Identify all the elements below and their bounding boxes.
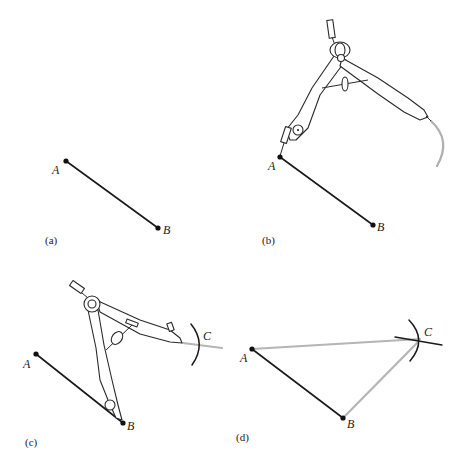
panel-label-a: (a) <box>45 234 58 247</box>
segment-ac <box>252 339 420 349</box>
segment-bc <box>343 343 417 418</box>
label-a: A <box>267 159 276 173</box>
panel-label-d: (d) <box>236 431 249 444</box>
panel-a: A B (a) <box>45 158 171 247</box>
construction-line <box>183 343 222 348</box>
point-a <box>33 351 38 356</box>
construction-arc <box>431 121 443 166</box>
point-b <box>340 415 345 420</box>
label-b: B <box>163 223 171 237</box>
segment-ab <box>252 349 343 418</box>
label-c: C <box>203 329 212 343</box>
compass-icon <box>70 281 182 420</box>
label-c: C <box>424 325 433 339</box>
panel-label-b: (b) <box>262 234 275 247</box>
panel-c: A B C (c) <box>22 281 222 449</box>
label-b: B <box>347 417 355 431</box>
segment-ab <box>66 161 158 228</box>
label-b: B <box>377 220 385 234</box>
point-a <box>249 346 254 351</box>
panel-b: A B (b) <box>262 20 443 247</box>
point-a <box>277 154 282 159</box>
compass-icon <box>280 20 431 156</box>
point-b <box>155 225 160 230</box>
point-b <box>370 222 375 227</box>
segment-ab <box>280 157 373 225</box>
label-a: A <box>22 357 31 371</box>
point-b <box>120 420 125 425</box>
panel-label-c: (c) <box>25 436 38 449</box>
label-a: A <box>51 163 60 177</box>
label-b: B <box>127 419 135 433</box>
point-a <box>63 158 68 163</box>
compass-construction-figure: A B (a) <box>0 0 464 465</box>
panel-d: A B C (d) <box>236 320 442 444</box>
label-a: A <box>239 351 248 365</box>
